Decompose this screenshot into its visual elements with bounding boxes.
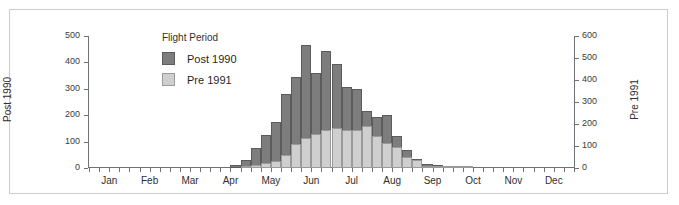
left-axis-tick	[84, 115, 88, 116]
legend: Flight Period Post 1990 Pre 1991	[162, 32, 237, 94]
right-axis-tick	[575, 102, 579, 103]
x-axis-tick	[119, 168, 120, 172]
left-axis-tick-label: 500	[65, 31, 80, 40]
legend-swatch-post-1990	[162, 52, 175, 65]
bar-pre-1991	[372, 136, 382, 168]
x-axis-tick	[180, 168, 181, 172]
bar-group	[402, 36, 412, 168]
bar-pre-1991	[342, 130, 352, 169]
bar-pre-1991	[402, 157, 412, 168]
left-axis-tick	[84, 36, 88, 37]
x-axis-tick	[160, 168, 161, 172]
x-axis-tick	[463, 168, 464, 172]
bar-pre-1991	[412, 160, 422, 168]
bar-group	[291, 36, 301, 168]
bar-group	[241, 36, 251, 168]
x-axis-tick	[554, 168, 555, 172]
x-axis-month-label: Mar	[170, 175, 210, 186]
bar-group	[89, 36, 99, 168]
x-axis-tick	[251, 168, 252, 172]
x-axis-tick	[564, 168, 565, 172]
x-axis-tick	[109, 168, 110, 172]
bar-pre-1991	[453, 166, 463, 168]
x-axis-month-label: May	[251, 175, 291, 186]
right-axis-tick	[575, 124, 579, 125]
bar-group	[453, 36, 463, 168]
right-axis-tick	[575, 80, 579, 81]
x-axis-tick	[301, 168, 302, 172]
bar-group	[129, 36, 139, 168]
x-axis-tick	[321, 168, 322, 172]
bar-group	[352, 36, 362, 168]
left-axis-tick-label: 100	[65, 137, 80, 146]
right-axis-tick	[575, 168, 579, 169]
bar-pre-1991	[281, 155, 291, 168]
right-axis-title: Pre 1991	[629, 79, 640, 120]
x-axis-tick	[311, 168, 312, 172]
bar-pre-1991	[301, 138, 311, 168]
bar-group	[554, 36, 564, 168]
x-axis-tick	[534, 168, 535, 172]
bar-group	[271, 36, 281, 168]
bar-group	[544, 36, 554, 168]
x-axis-tick	[150, 168, 151, 172]
x-axis-tick	[523, 168, 524, 172]
x-axis-month-label: Sep	[413, 175, 453, 186]
bar-group	[281, 36, 291, 168]
bar-pre-1991	[433, 166, 443, 168]
bar-group	[463, 36, 473, 168]
x-axis-tick	[453, 168, 454, 172]
x-axis-tick	[473, 168, 474, 172]
bar-group	[301, 36, 311, 168]
bar-group	[99, 36, 109, 168]
x-axis-tick	[544, 168, 545, 172]
x-axis-tick	[241, 168, 242, 172]
x-axis-month-label: Oct	[453, 175, 493, 186]
x-axis-tick	[574, 168, 575, 172]
right-axis-tick-label: 600	[582, 31, 597, 40]
bar-pre-1991	[382, 143, 392, 168]
x-axis-tick	[210, 168, 211, 172]
bar-pre-1991	[392, 147, 402, 168]
x-axis-tick	[402, 168, 403, 172]
bar-group	[523, 36, 533, 168]
left-axis-tick-label: 300	[65, 84, 80, 93]
bar-pre-1991	[311, 134, 321, 168]
left-axis-tick-label: 200	[65, 110, 80, 119]
x-axis-tick	[443, 168, 444, 172]
x-axis-month-label: Dec	[534, 175, 574, 186]
x-axis-tick	[392, 168, 393, 172]
x-axis-month-label: Apr	[210, 175, 250, 186]
x-axis-tick	[352, 168, 353, 172]
bar-pre-1991	[422, 166, 432, 168]
bar-group	[342, 36, 352, 168]
bar-group	[422, 36, 432, 168]
x-axis-tick	[220, 168, 221, 172]
bar-group	[311, 36, 321, 168]
bar-pre-1991	[251, 165, 261, 168]
bar-pre-1991	[362, 126, 372, 168]
x-axis-month-label: Jul	[332, 175, 372, 186]
right-axis-tick-label: 200	[582, 119, 597, 128]
chart-page: Post 1990 Pre 1991 Flight Period Post 19…	[0, 0, 679, 205]
x-axis-tick	[129, 168, 130, 172]
bar-pre-1991	[321, 130, 331, 169]
x-axis-month-label: Jun	[291, 175, 331, 186]
right-axis-tick-label: 100	[582, 141, 597, 150]
legend-title: Flight Period	[162, 32, 237, 43]
left-axis-tick-label: 0	[75, 163, 80, 172]
bar-group	[362, 36, 372, 168]
right-axis-tick-label: 400	[582, 75, 597, 84]
legend-label-post-1990: Post 1990	[187, 53, 237, 65]
bar-group	[503, 36, 513, 168]
x-axis-tick	[190, 168, 191, 172]
bar-group	[564, 36, 574, 168]
bar-group	[473, 36, 483, 168]
x-axis-month-label: Nov	[493, 175, 533, 186]
x-axis-month-label: Jan	[89, 175, 129, 186]
bar-group	[109, 36, 119, 168]
x-axis-tick	[291, 168, 292, 172]
x-axis-month-label: Aug	[372, 175, 412, 186]
x-axis-tick	[271, 168, 272, 172]
x-axis-tick	[89, 168, 90, 172]
